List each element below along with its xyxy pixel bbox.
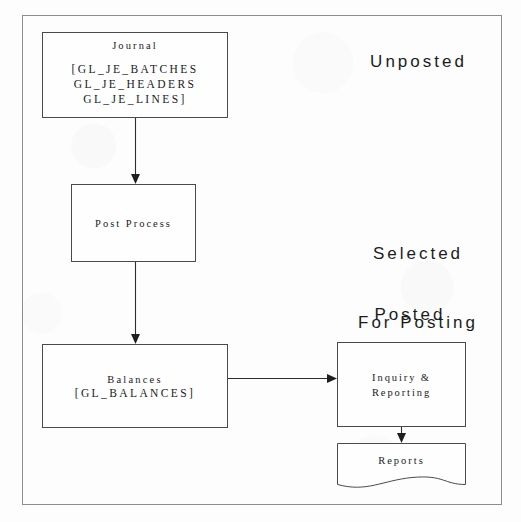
diagram-canvas: Journal [GL_JE_BATCHES GL_JE_HEADERS GL_… — [0, 0, 521, 522]
edge-inquiry-to-reports — [397, 427, 406, 443]
edge-post-process-to-balances — [131, 262, 140, 344]
edge-layer — [0, 0, 521, 522]
edge-journal-to-post-process — [131, 118, 140, 184]
edge-balances-to-inquiry — [228, 374, 337, 383]
